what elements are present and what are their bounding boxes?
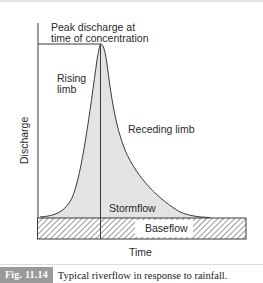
- x-axis-label: Time: [129, 246, 152, 258]
- caption-text: Typical riverflow in response to rainfal…: [58, 270, 228, 281]
- caption-label: Fig. 11.14: [0, 267, 53, 283]
- hydrograph-figure: Peak discharge at time of concentration …: [0, 0, 263, 262]
- receding-limb-label: Receding limb: [128, 123, 195, 135]
- y-axis-label: Discharge: [18, 117, 30, 164]
- stormflow-label: Stormflow: [109, 202, 156, 214]
- peak-label-line2: time of concentration: [51, 32, 149, 44]
- rising-limb-label-line2: limb: [57, 83, 76, 95]
- baseflow-label: Baseflow: [145, 222, 188, 234]
- hydrograph-svg: Peak discharge at time of concentration …: [0, 0, 263, 262]
- figure-caption: Fig. 11.14 Typical riverflow in response…: [0, 264, 263, 283]
